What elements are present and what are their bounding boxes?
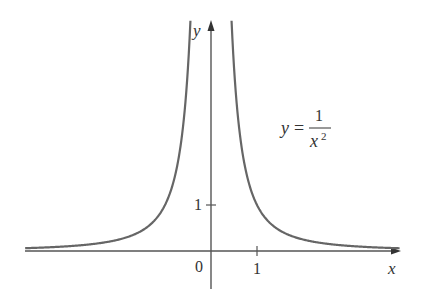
y-tick-label-1: 1: [194, 196, 202, 213]
equation-annotation: y = 1 x 2: [279, 107, 331, 151]
x-axis-label: x: [387, 259, 396, 278]
equation-denominator: x: [309, 131, 318, 151]
chart-canvas: y x 0 1 1 y = 1 x 2: [0, 0, 424, 305]
equation-numerator: 1: [315, 107, 323, 124]
equation-equals: =: [294, 118, 304, 138]
equation-exponent: 2: [321, 130, 327, 142]
y-axis-arrow-icon: [208, 20, 215, 31]
x-tick-label-1: 1: [253, 260, 261, 277]
y-axis-label: y: [191, 21, 201, 40]
origin-label: 0: [195, 258, 203, 275]
curve-left-branch: [25, 21, 190, 248]
equation-lhs: y: [279, 118, 289, 138]
